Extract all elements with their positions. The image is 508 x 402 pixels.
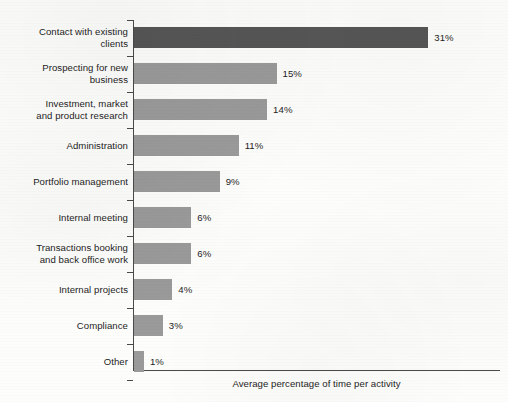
bar-value-label: 6% bbox=[197, 243, 211, 264]
bar-value-label: 31% bbox=[434, 27, 453, 48]
bar-value-label: 4% bbox=[178, 279, 192, 300]
bar-row[interactable]: Transactions booking and back office wor… bbox=[0, 243, 508, 279]
bar[interactable] bbox=[134, 279, 172, 300]
bar-value-label: 14% bbox=[273, 99, 292, 120]
bar-row[interactable]: Investment, market and product research1… bbox=[0, 99, 508, 135]
bar-value-label: 11% bbox=[245, 135, 264, 156]
y-axis-tick bbox=[127, 20, 133, 21]
bar-row[interactable]: Contact with existing clients31% bbox=[0, 27, 508, 63]
bar-row[interactable]: Compliance3% bbox=[0, 315, 508, 351]
bar[interactable] bbox=[134, 63, 276, 84]
bar-chart-figure: Contact with existing clients31%Prospect… bbox=[0, 0, 508, 402]
bar-row[interactable]: Internal meeting6% bbox=[0, 207, 508, 243]
bar[interactable] bbox=[134, 207, 191, 228]
bar-category-label: Internal projects bbox=[0, 284, 128, 296]
bar[interactable] bbox=[134, 243, 191, 264]
bar-category-label: Transactions booking and back office wor… bbox=[0, 242, 128, 265]
bar-category-label: Prospecting for new business bbox=[0, 62, 128, 85]
bar-category-label: Portfolio management bbox=[0, 176, 128, 188]
bar-category-label: Administration bbox=[0, 140, 128, 152]
bar-category-label: Compliance bbox=[0, 320, 128, 332]
bar[interactable] bbox=[134, 171, 219, 192]
bar-value-label: 1% bbox=[150, 351, 164, 372]
bar-value-label: 3% bbox=[169, 315, 183, 336]
bar-value-label: 9% bbox=[226, 171, 240, 192]
bar[interactable] bbox=[134, 99, 267, 120]
bar-value-label: 6% bbox=[197, 207, 211, 228]
bar[interactable] bbox=[134, 351, 143, 372]
x-axis-label: Average percentage of time per activity bbox=[133, 378, 500, 389]
bar-category-label: Investment, market and product research bbox=[0, 98, 128, 121]
bar-category-label: Contact with existing clients bbox=[0, 26, 128, 49]
bar-value-label: 15% bbox=[283, 63, 302, 84]
bar[interactable] bbox=[134, 315, 162, 336]
bar[interactable] bbox=[134, 135, 238, 156]
bar-row[interactable]: Portfolio management9% bbox=[0, 171, 508, 207]
bar-row[interactable]: Administration11% bbox=[0, 135, 508, 171]
bar-row[interactable]: Internal projects4% bbox=[0, 279, 508, 315]
plot-area: Contact with existing clients31%Prospect… bbox=[0, 0, 508, 402]
bar-row[interactable]: Prospecting for new business15% bbox=[0, 63, 508, 99]
bar[interactable] bbox=[134, 27, 428, 48]
bar-category-label: Internal meeting bbox=[0, 212, 128, 224]
bar-category-label: Other bbox=[0, 356, 128, 368]
